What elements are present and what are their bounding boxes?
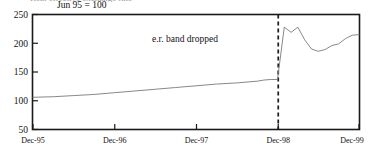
y-axis-ticks bbox=[33, 15, 39, 130]
x-axis-label-dec-99: Dec-99 bbox=[340, 136, 364, 146]
y-axis-label-200: 200 bbox=[2, 39, 28, 49]
plot-area bbox=[0, 0, 372, 155]
x-axis-label-dec-98: Dec-98 bbox=[266, 136, 290, 146]
plot-frame bbox=[33, 15, 360, 130]
y-axis-label-50: 50 bbox=[2, 125, 28, 135]
chart-figure: Real effective exchange rate Jun 95 = 10… bbox=[0, 0, 372, 155]
x-axis-label-dec-95: Dec-95 bbox=[21, 136, 45, 146]
x-axis-label-dec-97: Dec-97 bbox=[185, 136, 209, 146]
y-axis-label-150: 150 bbox=[2, 67, 28, 77]
y-axis-label-250: 250 bbox=[2, 10, 28, 20]
y-axis-label-100: 100 bbox=[2, 96, 28, 106]
x-axis-ticks bbox=[33, 124, 359, 130]
x-axis-label-dec-96: Dec-96 bbox=[103, 136, 127, 146]
chart-annotation-er-band-dropped: e.r. band dropped bbox=[152, 33, 218, 45]
